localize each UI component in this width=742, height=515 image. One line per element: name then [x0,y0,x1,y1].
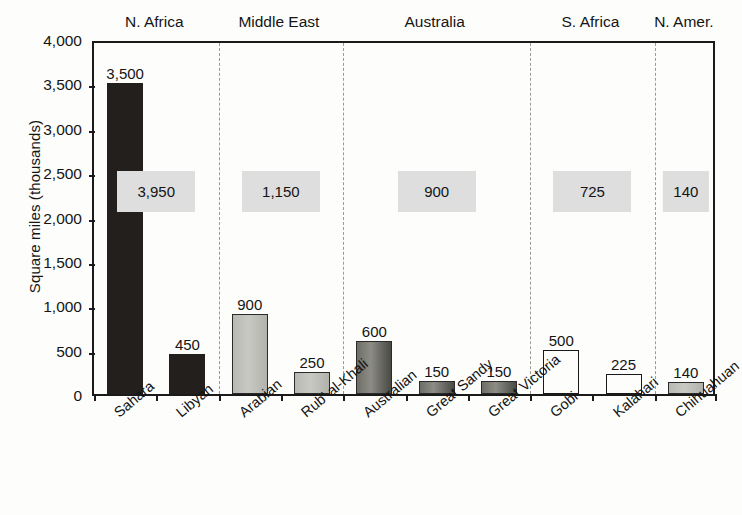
y-tick-label: 2,500 [26,166,82,182]
x-tick-mark [156,394,158,401]
y-tick-label: 3,000 [26,122,82,138]
bar-value-label: 450 [175,336,200,353]
y-tick-label: 4,000 [26,33,82,49]
bar-value-label: 3,500 [106,65,144,82]
x-tick-mark [715,394,717,401]
bar-value-label: 600 [362,323,387,340]
region-header-n-amer-: N. Amer. [654,13,713,31]
y-tick-label: 0 [26,388,82,404]
x-tick-mark [219,394,221,401]
bar-sahara[interactable] [107,83,143,394]
y-axis-tick-labels: 4,0003,5003,0002,5002,0001,5001,0005000 [26,0,82,515]
y-tick-label: 500 [26,344,82,360]
x-tick-mark [343,394,345,401]
bar-value-label: 140 [673,364,698,381]
x-tick-mark [592,394,594,401]
group-separator [219,43,221,394]
y-tick-mark [89,220,95,222]
region-total-n-amer-: 140 [663,171,709,212]
group-separator [343,43,345,394]
region-total-australia: 900 [398,171,476,212]
region-header-middle-east: Middle East [238,13,319,31]
region-header-australia: Australia [404,13,464,31]
region-total-s-africa: 725 [553,171,631,212]
region-header-n-africa: N. Africa [125,13,184,31]
group-separator [655,43,657,394]
x-tick-mark [530,394,532,401]
bar-value-label: 250 [300,354,325,371]
x-tick-mark [94,394,96,401]
y-tick-mark [89,131,95,133]
y-tick-label: 1,000 [26,299,82,315]
region-total-middle-east: 1,150 [242,171,320,212]
bar-value-label: 500 [549,332,574,349]
bar-arabian[interactable] [232,314,268,394]
region-total-n-africa: 3,950 [117,171,195,212]
bar-value-label: 900 [237,296,262,313]
x-tick-mark [281,394,283,401]
y-tick-label: 1,500 [26,255,82,271]
bar-value-label: 150 [424,363,449,380]
region-header-s-africa: S. Africa [562,13,620,31]
y-tick-mark [89,86,95,88]
group-separator [530,43,532,394]
y-tick-mark [89,264,95,266]
y-tick-label: 2,000 [26,211,82,227]
plot-area: 3,5004509002506001501505002251403,9501,1… [92,41,715,396]
y-tick-mark [89,175,95,177]
y-tick-label: 3,500 [26,77,82,93]
bar-value-label: 225 [611,356,636,373]
y-tick-mark [89,353,95,355]
x-tick-mark [468,394,470,401]
y-tick-mark [89,308,95,310]
x-tick-mark [406,394,408,401]
x-tick-mark [655,394,657,401]
